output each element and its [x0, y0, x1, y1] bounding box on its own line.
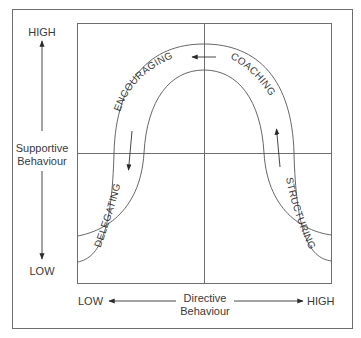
x-axis-high: HIGH: [307, 295, 335, 307]
x-axis-label-line2: Behaviour: [180, 305, 230, 317]
x-axis-label-line1: Directive: [184, 292, 227, 304]
arrow-up-structuring: [277, 129, 281, 167]
x-axis-low: LOW: [78, 295, 104, 307]
label-encouraging: ENCOURAGING: [112, 49, 175, 112]
leadership-diagram: DELEGATING ENCOURAGING COACHING STRUCTUR…: [0, 0, 361, 338]
arrow-down-delegating: [129, 131, 133, 170]
y-axis-label-line1: Supportive: [16, 142, 69, 154]
outer-frame: [13, 10, 353, 329]
y-axis-low: LOW: [29, 265, 55, 277]
y-axis-high: HIGH: [28, 26, 56, 38]
label-structuring: STRUCTURING: [284, 176, 318, 251]
y-axis-label-line2: Behaviour: [17, 155, 67, 167]
label-delegating: DELEGATING: [92, 182, 122, 249]
